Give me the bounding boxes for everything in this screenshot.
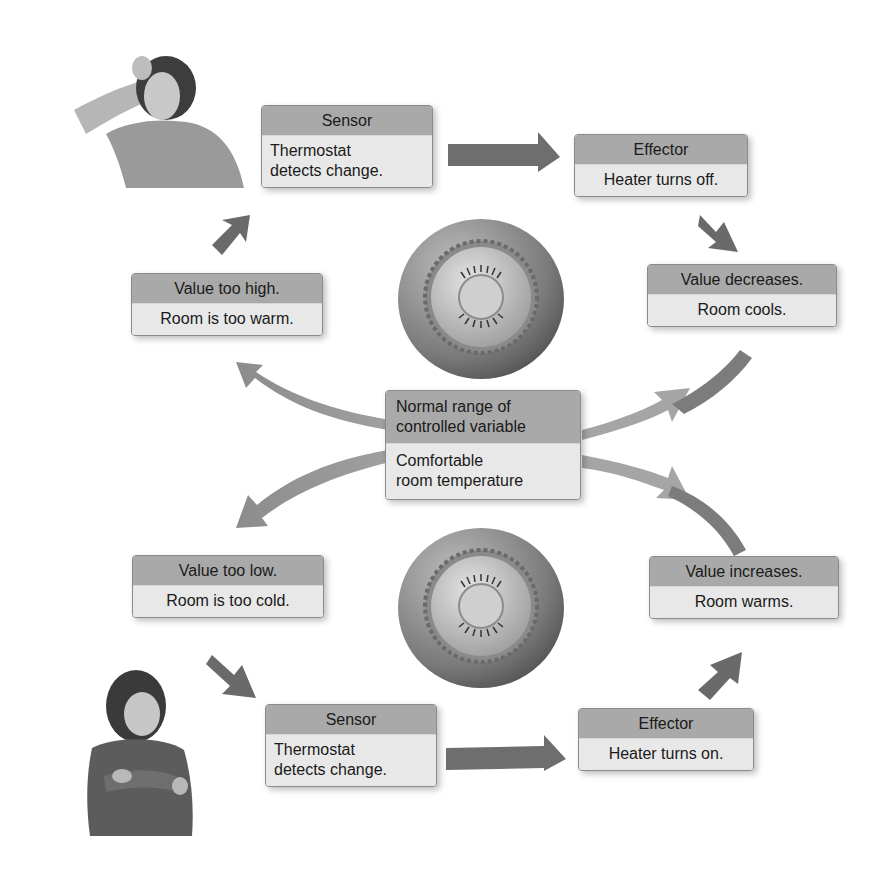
set-point-header-line2: controlled variable <box>396 417 570 437</box>
lower-sensor-body-line2: detects change. <box>274 760 428 780</box>
upper-sensor-box: Sensor Thermostat detects change. <box>261 105 433 188</box>
arrow-sensor-to-effector-top <box>448 132 560 172</box>
set-point-header-line1: Normal range of <box>396 397 570 417</box>
arrow-decrease-to-center <box>582 350 752 440</box>
thermostat-dial-top <box>397 218 565 380</box>
homeostasis-diagram: Sensor Thermostat detects change. Effect… <box>0 0 888 876</box>
upper-stimulus-body: Room is too warm. <box>132 304 322 335</box>
lower-stimulus-header: Value too low. <box>133 556 323 586</box>
set-point-body-line2: room temperature <box>396 471 570 491</box>
lower-effector-header: Effector <box>579 709 753 739</box>
arrow-low-to-sensor <box>206 655 256 698</box>
set-point-body: Comfortable room temperature <box>386 444 580 499</box>
lower-sensor-box: Sensor Thermostat detects change. <box>265 704 437 787</box>
lower-response-header: Value increases. <box>650 557 838 587</box>
set-point-body-line1: Comfortable <box>396 451 570 471</box>
woman-too-warm-illustration <box>66 38 252 198</box>
arrow-effector-to-decrease <box>698 215 738 252</box>
arrow-increase-to-center <box>582 455 746 556</box>
arrow-center-to-low <box>236 450 390 528</box>
upper-sensor-body-line2: detects change. <box>270 161 424 181</box>
upper-stimulus-box: Value too high. Room is too warm. <box>131 273 323 336</box>
lower-effector-body: Heater turns on. <box>579 739 753 770</box>
lower-effector-box: Effector Heater turns on. <box>578 708 754 771</box>
set-point-box: Normal range of controlled variable Comf… <box>385 390 581 500</box>
thermostat-dial-bottom <box>397 527 565 689</box>
upper-response-box: Value decreases. Room cools. <box>647 264 837 327</box>
lower-sensor-body-line1: Thermostat <box>274 740 428 760</box>
set-point-header: Normal range of controlled variable <box>386 391 580 444</box>
woman-too-cold-illustration <box>74 658 204 838</box>
lower-sensor-body: Thermostat detects change. <box>266 735 436 786</box>
arrow-effector-to-increase <box>698 652 742 700</box>
lower-response-body: Room warms. <box>650 587 838 618</box>
upper-sensor-header: Sensor <box>262 106 432 136</box>
arrow-sensor-to-effector-bottom <box>446 735 566 771</box>
lower-stimulus-box: Value too low. Room is too cold. <box>132 555 324 618</box>
upper-effector-body: Heater turns off. <box>575 165 747 196</box>
lower-stimulus-body: Room is too cold. <box>133 586 323 617</box>
upper-response-header: Value decreases. <box>648 265 836 295</box>
upper-effector-header: Effector <box>575 135 747 165</box>
upper-sensor-body: Thermostat detects change. <box>262 136 432 187</box>
upper-stimulus-header: Value too high. <box>132 274 322 304</box>
arrow-center-to-high <box>236 362 390 430</box>
upper-sensor-body-line1: Thermostat <box>270 141 424 161</box>
upper-response-body: Room cools. <box>648 295 836 326</box>
upper-effector-box: Effector Heater turns off. <box>574 134 748 197</box>
arrow-high-to-sensor <box>212 215 250 255</box>
lower-response-box: Value increases. Room warms. <box>649 556 839 619</box>
lower-sensor-header: Sensor <box>266 705 436 735</box>
